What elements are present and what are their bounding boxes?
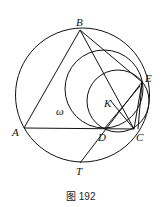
geometry-figure: B E K A D C T ω 图 192 bbox=[0, 0, 164, 207]
segments bbox=[24, 30, 142, 163]
circumcircle bbox=[16, 28, 150, 162]
circles bbox=[16, 28, 150, 162]
label-A: A bbox=[11, 126, 19, 138]
label-D: D bbox=[97, 131, 106, 143]
small-circle bbox=[87, 70, 149, 132]
segment-BC bbox=[80, 30, 134, 129]
figure-caption: 图 192 bbox=[66, 191, 96, 202]
label-E: E bbox=[144, 72, 152, 84]
label-K: K bbox=[103, 97, 112, 109]
segment-KC bbox=[110, 100, 134, 129]
label-omega: ω bbox=[56, 105, 64, 117]
segment-BE bbox=[80, 30, 142, 82]
label-T: T bbox=[76, 165, 83, 177]
omega-circle bbox=[65, 50, 143, 128]
segment-AC bbox=[24, 128, 134, 129]
label-B: B bbox=[76, 16, 83, 28]
label-C: C bbox=[136, 131, 144, 143]
segment-AB bbox=[24, 30, 80, 128]
